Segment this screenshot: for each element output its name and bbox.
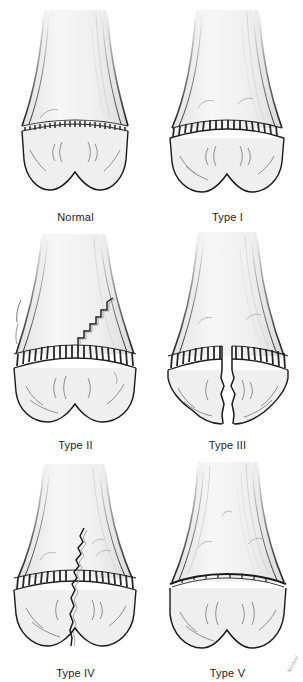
panel-caption-type-2: Type II (0, 439, 151, 451)
panel-normal: Normal (0, 0, 151, 227)
panel-type-5: Nordahl Type V (152, 456, 303, 682)
panel-caption-type-5: Type V (152, 667, 303, 679)
salter-harris-figure: Normal (0, 0, 303, 682)
bone-illustration-type-3 (152, 228, 303, 428)
panel-caption-type-4: Type IV (0, 667, 151, 679)
panel-caption-normal: Normal (0, 211, 151, 223)
panel-type-1: Type I (152, 0, 303, 227)
bone-illustration-type-1 (152, 0, 303, 200)
bone-illustration-type-2 (0, 228, 151, 428)
panel-caption-type-3: Type III (152, 439, 303, 451)
bone-illustration-normal (0, 0, 151, 200)
panel-type-3: Type III (152, 228, 303, 455)
bone-illustration-type-4 (0, 456, 151, 656)
panel-caption-type-1: Type I (152, 211, 303, 223)
bone-illustration-type-5 (152, 456, 303, 656)
panel-type-2: Type II (0, 228, 151, 455)
panel-type-4: Type IV (0, 456, 151, 682)
